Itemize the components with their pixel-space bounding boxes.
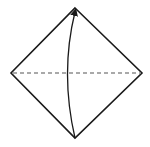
- origami-diagram: [0, 0, 150, 147]
